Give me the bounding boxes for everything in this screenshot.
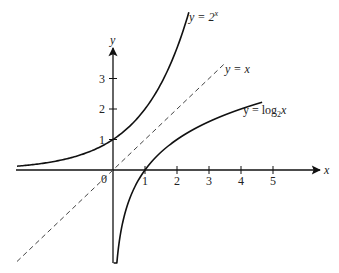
- x-tick-label: 3: [206, 174, 212, 188]
- label-log2-x: y = log2x: [243, 103, 287, 119]
- y-ticks: 123: [99, 72, 117, 147]
- y-axis-label: y: [109, 33, 116, 47]
- label-y-equals-x: y = x: [224, 62, 250, 76]
- graph-canvas: 12345 123 y x 0 y = 2x y = x y = log2x: [0, 0, 339, 273]
- x-tick-label: 4: [238, 174, 244, 188]
- origin-label: 0: [101, 172, 107, 186]
- x-ticks: 12345: [142, 166, 276, 188]
- label-2-pow-x: y = 2x: [188, 9, 218, 24]
- x-tick-label: 1: [142, 174, 148, 188]
- y-tick-label: 2: [99, 102, 105, 116]
- x-tick-label: 5: [270, 174, 276, 188]
- y-tick-label: 3: [99, 72, 105, 86]
- x-axis-label: x: [323, 163, 330, 177]
- x-tick-label: 2: [174, 174, 180, 188]
